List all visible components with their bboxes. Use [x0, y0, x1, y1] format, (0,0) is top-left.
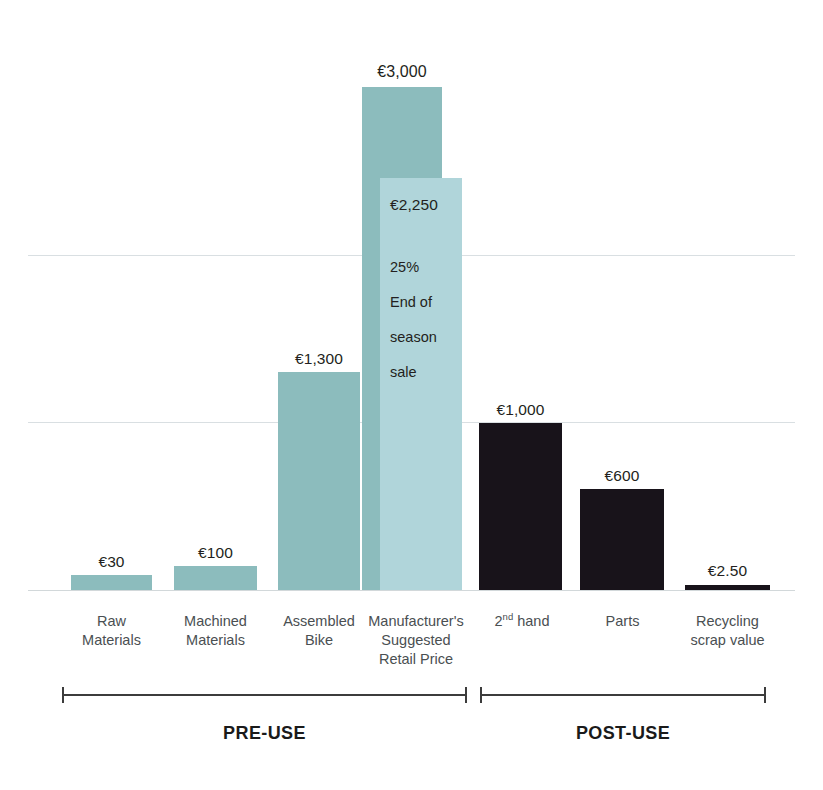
- bar-parts[interactable]: [580, 489, 664, 590]
- category-label-recycling: Recycling scrap value: [670, 612, 785, 650]
- bar-value-recycling: €2.50: [685, 563, 770, 579]
- bar-value-machined-materials: €100: [174, 545, 257, 561]
- ordinal-word: hand: [517, 613, 549, 629]
- ordinal-number: 2: [495, 613, 503, 629]
- category-line-2: Suggested: [361, 631, 471, 650]
- bar-second-hand[interactable]: [479, 423, 562, 590]
- category-line-1: Assembled: [268, 612, 370, 631]
- bar-recycling[interactable]: [685, 585, 770, 590]
- bar-value-msrp-sale: €2,250: [390, 197, 460, 213]
- bar-value-raw-materials: €30: [71, 554, 152, 570]
- category-line-1: Parts: [580, 612, 665, 631]
- category-line-1: Raw: [61, 612, 162, 631]
- bracket-pre-use: [62, 687, 467, 703]
- bar-value-msrp: €3,000: [357, 64, 447, 80]
- category-label-second-hand: 2nd hand: [478, 612, 566, 631]
- annotation-line-season: season: [390, 329, 460, 347]
- category-line-2: Materials: [163, 631, 268, 650]
- bracket-line: [62, 694, 467, 696]
- group-label-pre-use: PRE-USE: [62, 723, 467, 744]
- category-line-1: 2nd hand: [478, 612, 566, 631]
- category-line-1: Recycling: [670, 612, 785, 631]
- plot-area: €30 €100 €1,300 €3,000 €2,250 25% End of…: [0, 0, 823, 600]
- ordinal-suffix: nd: [503, 611, 514, 622]
- bar-value-parts: €600: [580, 468, 664, 484]
- category-label-machined-materials: Machined Materials: [163, 612, 268, 650]
- category-label-raw-materials: Raw Materials: [61, 612, 162, 650]
- annotation-line-sale: sale: [390, 364, 460, 382]
- bar-value-second-hand: €1,000: [479, 402, 562, 418]
- category-label-assembled-bike: Assembled Bike: [268, 612, 370, 650]
- bracket-tick-right: [764, 687, 766, 703]
- annotation-line-end-of: End of: [390, 294, 460, 312]
- bracket-line: [480, 694, 766, 696]
- category-label-parts: Parts: [580, 612, 665, 631]
- category-line-1: Manufacturer's: [361, 612, 471, 631]
- bar-raw-materials[interactable]: [71, 575, 152, 590]
- category-line-3: Retail Price: [361, 650, 471, 669]
- bar-machined-materials[interactable]: [174, 566, 257, 590]
- chart-canvas: €30 €100 €1,300 €3,000 €2,250 25% End of…: [0, 0, 823, 790]
- bar-value-assembled-bike: €1,300: [278, 351, 360, 367]
- category-label-msrp: Manufacturer's Suggested Retail Price: [361, 612, 471, 669]
- bracket-tick-right: [465, 687, 467, 703]
- axis-baseline: [28, 590, 795, 591]
- category-line-2: Bike: [268, 631, 370, 650]
- bracket-post-use: [480, 687, 766, 703]
- bar-assembled-bike[interactable]: [278, 372, 360, 590]
- annotation-line-discount: 25%: [390, 259, 460, 277]
- bar-annotation-msrp-sale: 25% End of season sale: [390, 241, 460, 399]
- group-label-post-use: POST-USE: [480, 723, 766, 744]
- category-line-2: scrap value: [670, 631, 785, 650]
- category-line-1: Machined: [163, 612, 268, 631]
- category-line-2: Materials: [61, 631, 162, 650]
